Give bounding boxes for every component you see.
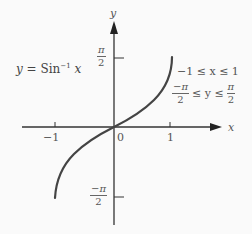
fraction-denominator: 2 xyxy=(177,94,183,105)
function-name: Sin xyxy=(41,62,61,76)
fraction-numerator: π xyxy=(97,45,106,57)
x-tick-label-1: 1 xyxy=(167,132,174,143)
range-lower-bound: −π 2 xyxy=(172,82,189,105)
y-axis-arrow-icon xyxy=(110,21,118,34)
x-axis-label: x xyxy=(228,122,234,133)
function-exponent: −1 xyxy=(60,62,70,70)
origin-label: 0 xyxy=(117,132,124,143)
fraction-numerator: −π xyxy=(172,82,189,94)
function-equals: = xyxy=(27,62,37,76)
plot-area xyxy=(0,0,252,234)
fraction-denominator: 2 xyxy=(95,196,101,207)
fraction-denominator: 2 xyxy=(228,94,234,105)
range-upper-bound: π 2 xyxy=(227,82,236,105)
x-axis-arrow-icon xyxy=(210,123,222,131)
y-tick-label-neg-pi-over-2: −π 2 xyxy=(90,184,107,207)
fraction-denominator: 2 xyxy=(98,57,104,68)
domain-inequality: −1 ≤ x ≤ 1 xyxy=(177,66,239,77)
fraction-numerator: π xyxy=(227,82,236,94)
function-label: y = Sin−1 x xyxy=(16,62,81,76)
function-arg: x xyxy=(74,62,81,76)
fraction-numerator: −π xyxy=(90,184,107,196)
function-lhs: y xyxy=(16,62,23,76)
y-axis-label: y xyxy=(110,8,116,19)
y-tick-label-pi-over-2: π 2 xyxy=(97,45,106,68)
range-middle: ≤ y ≤ xyxy=(192,87,224,100)
range-inequality: −π 2 ≤ y ≤ π 2 xyxy=(172,82,235,105)
x-tick-label-neg1: −1 xyxy=(43,132,59,143)
arcsin-diagram: y x 0 −1 1 π 2 −π 2 y = Sin−1 x −1 ≤ x ≤… xyxy=(0,0,252,234)
